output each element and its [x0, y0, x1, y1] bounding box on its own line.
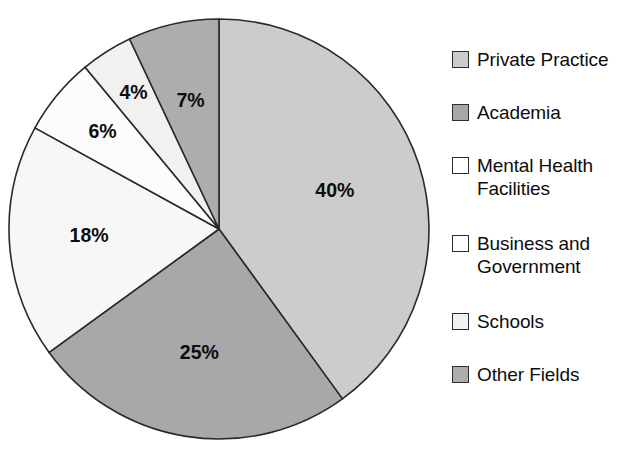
legend-item[interactable]: Private Practice	[452, 48, 635, 71]
legend-item-label: Mental Health Facilities	[477, 154, 593, 200]
legend-item-label: Other Fields	[477, 363, 579, 386]
legend-item[interactable]: Academia	[452, 101, 635, 124]
legend-swatch-icon	[452, 104, 469, 121]
legend-swatch-icon	[452, 51, 469, 68]
pie-slice-value-label: 40%	[315, 179, 354, 201]
legend-swatch-icon	[452, 313, 469, 330]
chart-legend: Private PracticeAcademiaMental Health Fa…	[452, 48, 635, 386]
legend-item-label: Schools	[477, 310, 544, 333]
pie-slice-value-label: 25%	[180, 341, 219, 363]
legend-item-label: Academia	[477, 101, 561, 124]
legend-swatch-icon	[452, 366, 469, 383]
pie-chart-svg: 40%25%18%6%4%7%	[0, 0, 440, 453]
legend-swatch-icon	[452, 235, 469, 252]
pie-slice-value-label: 4%	[119, 81, 147, 103]
legend-item[interactable]: Mental Health Facilities	[452, 154, 635, 200]
legend-item-label: Business and Government	[477, 232, 590, 278]
legend-item[interactable]: Business and Government	[452, 232, 635, 278]
pie-chart-figure: 40%25%18%6%4%7% Private PracticeAcademia…	[0, 0, 635, 453]
legend-swatch-icon	[452, 157, 469, 174]
pie-slice-value-label: 6%	[88, 120, 116, 142]
pie-slice-value-label: 7%	[177, 89, 205, 111]
legend-item[interactable]: Other Fields	[452, 363, 635, 386]
legend-item[interactable]: Schools	[452, 310, 635, 333]
pie-slice-value-label: 18%	[70, 224, 109, 246]
legend-item-label: Private Practice	[477, 48, 608, 71]
